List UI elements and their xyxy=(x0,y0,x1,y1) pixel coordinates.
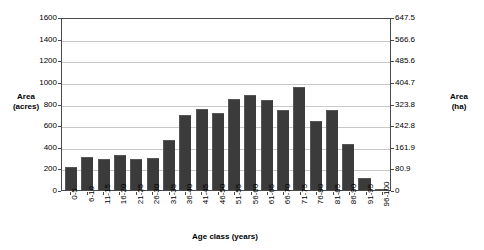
bar-slot xyxy=(275,19,291,190)
bar-slot xyxy=(112,19,128,190)
bar-slot xyxy=(242,19,258,190)
x-axis-title: Age class (years) xyxy=(120,232,330,241)
y-axis-right-tick-mark xyxy=(391,169,394,170)
bar-chart: Area (acres) Area (ha) Age class (years)… xyxy=(0,0,484,250)
y-axis-right-tick-mark xyxy=(391,105,394,106)
bar-slot xyxy=(96,19,112,190)
bar-slot xyxy=(210,19,226,190)
bar xyxy=(244,95,256,190)
x-tick-slot: 31-35 xyxy=(160,192,176,232)
bar xyxy=(163,140,175,190)
x-tick-slot: 11-15 xyxy=(95,192,111,232)
y-axis-right-tick-label: 0 xyxy=(395,186,435,196)
x-tick-slot: 51-55 xyxy=(226,192,242,232)
bar-series xyxy=(62,19,390,190)
bar-slot xyxy=(177,19,193,190)
bar-slot xyxy=(324,19,340,190)
x-tick-slot: 96-100 xyxy=(374,192,390,232)
y-axis-left-tick-label: 1200 xyxy=(21,56,57,66)
bar xyxy=(293,87,305,190)
y-axis-right-tick-label: 323.8 xyxy=(395,100,435,110)
x-tick-slot: 81-85 xyxy=(325,192,341,232)
x-axis-tick-label: 96-100 xyxy=(382,182,391,207)
x-tick-slot: 0-5 xyxy=(62,192,78,232)
y-axis-right-tick-mark xyxy=(391,61,394,62)
y-axis-left-tick-label: 400 xyxy=(21,143,57,153)
bar-slot xyxy=(193,19,209,190)
bar-slot xyxy=(340,19,356,190)
y-axis-right-tick-mark xyxy=(391,191,394,192)
bar-slot xyxy=(259,19,275,190)
x-tick-slot: 6-10 xyxy=(78,192,94,232)
bar xyxy=(261,100,273,190)
bar-slot xyxy=(161,19,177,190)
bar xyxy=(212,113,224,190)
x-axis-tick-labels: 0-56-1011-1516-2021-2526-3031-3536-4041-… xyxy=(61,192,391,232)
y-axis-left-tick-label: 200 xyxy=(21,164,57,174)
x-tick-slot: 21-25 xyxy=(128,192,144,232)
x-tick-slot: 91-95 xyxy=(357,192,373,232)
bar xyxy=(65,167,77,190)
x-tick-slot: 66-70 xyxy=(275,192,291,232)
x-tick-slot: 26-30 xyxy=(144,192,160,232)
y-axis-left-tick-label: 0 xyxy=(21,186,57,196)
x-tick-slot: 71-75 xyxy=(292,192,308,232)
y-axis-left-tick-label: 1400 xyxy=(21,35,57,45)
bar-slot xyxy=(79,19,95,190)
y-axis-right-tick-label: 242.8 xyxy=(395,121,435,131)
y-axis-right-tick-label: 647.5 xyxy=(395,13,435,23)
y-axis-left-tick-label: 1000 xyxy=(21,78,57,88)
bar-slot xyxy=(373,19,389,190)
y-axis-right-tick-mark xyxy=(391,83,394,84)
y-axis-right-title-line1: Area xyxy=(436,92,482,102)
x-tick-slot: 16-20 xyxy=(111,192,127,232)
y-axis-right-title-line2: (ha) xyxy=(436,102,482,112)
bar-slot xyxy=(128,19,144,190)
bar-slot xyxy=(291,19,307,190)
y-axis-left-tick-label: 600 xyxy=(21,121,57,131)
bar xyxy=(310,121,322,190)
bar-slot xyxy=(307,19,323,190)
y-axis-right-tick-label: 566.6 xyxy=(395,35,435,45)
y-axis-right-tick-mark xyxy=(391,148,394,149)
y-axis-left-tick-label: 1600 xyxy=(21,13,57,23)
y-axis-right-tick-mark xyxy=(391,126,394,127)
x-tick-slot: 36-40 xyxy=(177,192,193,232)
plot-area xyxy=(61,18,391,191)
y-axis-right-tick-mark xyxy=(391,18,394,19)
x-tick-slot: 46-50 xyxy=(210,192,226,232)
y-axis-right-tick-label: 485.6 xyxy=(395,56,435,66)
bar xyxy=(277,110,289,190)
y-axis-right-tick-label: 80.9 xyxy=(395,164,435,174)
bar-slot xyxy=(226,19,242,190)
y-axis-right-tick-mark xyxy=(391,40,394,41)
x-tick-slot: 61-65 xyxy=(259,192,275,232)
y-axis-right-title: Area (ha) xyxy=(436,92,482,112)
y-axis-right-tick-label: 161.9 xyxy=(395,143,435,153)
bar-slot xyxy=(63,19,79,190)
y-axis-right-tick-label: 404.7 xyxy=(395,78,435,88)
x-tick-slot: 56-60 xyxy=(242,192,258,232)
bar xyxy=(326,110,338,190)
bar xyxy=(196,109,208,190)
bar-slot xyxy=(144,19,160,190)
x-tick-slot: 86-90 xyxy=(341,192,357,232)
x-tick-slot: 41-45 xyxy=(193,192,209,232)
bar xyxy=(179,115,191,190)
y-axis-left-tick-label: 800 xyxy=(21,100,57,110)
bar xyxy=(228,99,240,190)
x-tick-slot: 76-80 xyxy=(308,192,324,232)
bar-slot xyxy=(356,19,372,190)
